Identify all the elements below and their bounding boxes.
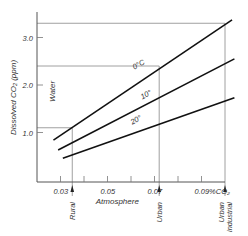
series-line: [53, 20, 232, 140]
co2-dissolution-chart: 0.030.050.070.09%CO₂1.02.03.0 RuralUrban…: [0, 0, 248, 236]
series-label: 0°C: [131, 57, 147, 71]
marker-label: Rural: [68, 202, 77, 220]
guide-lines: [37, 23, 227, 196]
x-axis-title: Atmosphere: [95, 197, 140, 206]
x-tick-label: 0.05: [101, 187, 116, 196]
x-tick-label: 0.09%CO₂: [195, 187, 231, 196]
arrow-up-icon: [70, 185, 74, 192]
y-tick-label: 3.0: [23, 34, 34, 43]
series-lines: [53, 20, 234, 158]
axes: 0.030.050.070.09%CO₂1.02.03.0: [22, 12, 230, 196]
series-label: 10°: [139, 88, 153, 101]
y-tick-label: 2.0: [22, 81, 34, 90]
series-line: [63, 98, 235, 158]
y-tick-label: 1.0: [23, 129, 34, 138]
marker-label: Urban: [155, 202, 164, 222]
series-label: 20°: [128, 113, 143, 127]
x-tick-label: 0.03: [54, 187, 69, 196]
water-label: Water: [48, 80, 57, 102]
series-line: [58, 59, 234, 150]
y-axis-title: Dissolved CO₂ (ppm): [9, 60, 18, 135]
x-tick-label: 0.07: [148, 187, 163, 196]
marker-label: industrial: [225, 202, 234, 232]
labels: RuralUrbanUrbanindustrial0°C10°20°Atmosp…: [9, 57, 234, 232]
